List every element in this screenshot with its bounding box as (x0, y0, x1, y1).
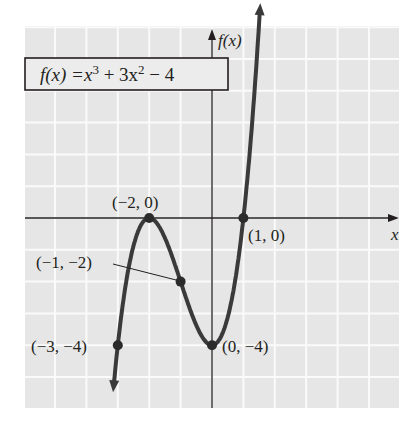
marked-point (144, 213, 154, 223)
point-label-neg3-neg4: (−3, −4) (31, 337, 87, 356)
curve-arrow-up-icon (255, 3, 265, 15)
marked-point (176, 277, 186, 287)
x-axis-label: x (390, 225, 399, 244)
function-label-lhs: f(x) = (40, 64, 84, 86)
function-label: f(x) =x3 + 3x2 − 4 (40, 62, 175, 86)
point-label-0-neg4: (0, −4) (222, 337, 268, 356)
point-label-1-0: (1, 0) (248, 226, 285, 245)
marked-point (113, 340, 123, 350)
function-graph: x f(x) (−2, 0) (1, 0) (−1, −2) (−3, −4) … (0, 0, 419, 426)
function-label-t3: − 4 (145, 64, 175, 85)
point-label-neg1-neg2: (−1, −2) (36, 253, 92, 272)
point-label-neg2-0: (−2, 0) (112, 193, 158, 212)
y-axis-label: f(x) (218, 31, 242, 50)
marked-point (207, 340, 217, 350)
marked-point (238, 213, 248, 223)
function-label-t2: + 3x (99, 64, 139, 85)
